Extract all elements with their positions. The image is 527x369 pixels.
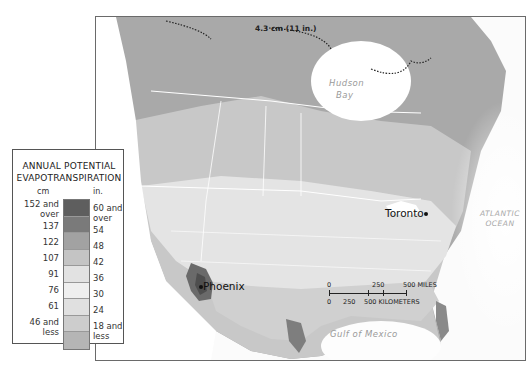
scale-km-500: 500 KILOMETERS [364,298,420,306]
swatch-24 [64,299,89,316]
legend-swatches [63,199,90,350]
legend-cm-91: 91 [19,270,59,280]
swatch-30 [64,283,89,300]
legend-title: ANNUAL POTENTIAL EVAPOTRANSPIRATION [13,160,125,184]
swatch-36 [64,266,89,283]
atlantic-label: ATLANTIC [474,209,526,219]
city-phoenix-label: Phoenix [203,280,245,292]
legend-in-42: 42 [93,258,104,268]
scale-tick [383,290,384,296]
scale-km-250: 250 [343,298,355,306]
gulf-of-mexico-label: Gulf of Mexico [330,329,398,339]
legend-unit-in: in. [93,187,103,196]
city-phoenix: Phoenix [199,280,245,292]
isoline-label: 4.3 cm (11 in.) [255,24,316,33]
scale-bar: 0 250 500 MILES 0 250 500 KILOMETERS [325,281,430,311]
bay-label: Bay [336,90,354,100]
legend: ANNUAL POTENTIAL EVAPOTRANSPIRATION cm i… [12,149,124,344]
scale-miles-500: 500 MILES [403,281,437,289]
legend-title-line1: ANNUAL POTENTIAL [13,160,125,172]
map-frame [95,16,526,361]
scale-miles-0: 0 [327,281,331,289]
scale-miles-250: 250 [372,281,384,289]
ocean-label: OCEAN [474,219,526,229]
legend-unit-cm: cm [37,187,49,196]
legend-cm-107: 107 [19,254,59,264]
legend-in-30: 30 [93,290,104,300]
scale-tick [406,290,407,296]
swatch-54 [64,217,89,234]
legend-cm-46-less: 46 and less [19,318,59,337]
atlantic-ocean-label: ATLANTIC OCEAN [474,209,526,229]
legend-cm-61: 61 [19,302,59,312]
legend-cm-label: over [19,210,59,220]
legend-in-48: 48 [93,242,104,252]
swatch-48 [64,233,89,250]
map-graphic [96,17,525,360]
legend-in-36: 36 [93,274,104,284]
legend-in-label: over [93,214,123,224]
swatch-18-less [64,332,89,349]
swatch-60-over [64,200,89,217]
legend-in-24: 24 [93,306,104,316]
swatch-42 [64,250,89,267]
legend-cm-label: less [19,328,59,338]
legend-title-line2: EVAPOTRANSPIRATION [13,172,125,184]
legend-cm-152-over: 152 and over [19,200,59,219]
scale-tick [329,290,330,296]
hudson-label: Hudson [329,78,364,88]
legend-cm-76: 76 [19,286,59,296]
legend-cm-122: 122 [19,238,59,248]
city-toronto-label: Toronto [385,207,424,219]
legend-cm-137: 137 [19,222,59,232]
city-dot-icon [424,212,428,216]
legend-in-54: 54 [93,226,104,236]
scale-km-0: 0 [327,298,331,306]
city-toronto: Toronto [385,207,428,219]
legend-in-18-less: 18 and less [93,322,123,341]
legend-in-60-over: 60 and over [93,204,123,223]
scale-tick [368,290,369,296]
legend-in-label: less [93,332,123,342]
swatch-21 [64,316,89,333]
